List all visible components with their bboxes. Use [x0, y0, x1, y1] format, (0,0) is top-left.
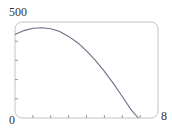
plot-frame	[15, 22, 158, 118]
x-min-label: 0	[9, 114, 15, 126]
y-max-label: 500	[9, 6, 27, 18]
x-max-label: 8	[161, 110, 167, 122]
chart-plot	[0, 0, 172, 131]
data-curve	[15, 28, 138, 118]
